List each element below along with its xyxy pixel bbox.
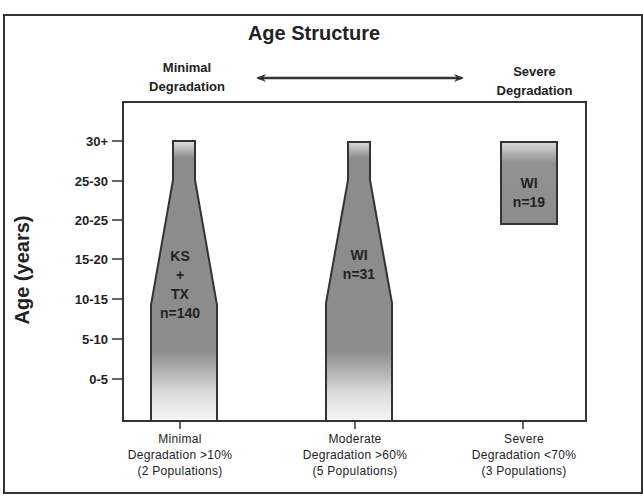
shape-label-line: WI [329,246,389,265]
y-tick-label: 30+ [86,134,108,149]
y-axis-ticks [112,141,123,379]
category-line: Degradation >10% [100,447,260,463]
category-label-minimal: Minimal Degradation >10% (2 Populations) [100,431,260,479]
category-line: Severe [444,431,604,447]
category-line: (2 Populations) [100,463,260,479]
shape-label-line: n=140 [150,304,210,323]
shape-label-line: TX [150,285,210,304]
category-line: Degradation <70% [444,447,604,463]
category-label-severe: Severe Degradation <70% (3 Populations) [444,431,604,479]
y-tick-label: 0-5 [89,372,108,387]
x-axis-ticks [180,421,523,429]
shape-label-wi-moderate: WI n=31 [329,246,389,284]
y-tick-label: 25-30 [75,174,108,189]
category-line: Minimal [100,431,260,447]
y-tick-label: 10-15 [75,292,108,307]
shape-label-line: + [150,266,210,285]
y-tick-label: 5-10 [82,332,108,347]
category-line: (5 Populations) [275,463,435,479]
category-line: Degradation >60% [275,447,435,463]
category-label-moderate: Moderate Degradation >60% (5 Populations… [275,431,435,479]
y-tick-label: 20-25 [75,213,108,228]
y-axis-label: Age (years) [11,216,34,325]
category-line: Moderate [275,431,435,447]
shape-label-line: KS [150,247,210,266]
category-line: (3 Populations) [444,463,604,479]
shape-label-ks-tx: KS + TX n=140 [150,247,210,323]
shape-label-wi-severe: WI n=19 [499,174,559,212]
y-tick-label: 15-20 [75,252,108,267]
shape-label-line: n=19 [499,193,559,212]
shape-label-line: WI [499,174,559,193]
shape-label-line: n=31 [329,265,389,284]
